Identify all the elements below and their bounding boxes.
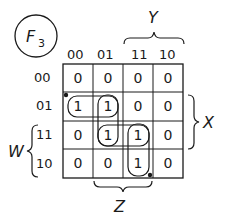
function-label: F 3 [15,15,57,57]
column-header: 10 [159,47,176,62]
variable-x-brace: X [188,95,215,149]
cell-value: 1 [74,98,83,114]
variable-y-label: Y [148,8,159,27]
column-header: 01 [97,47,114,62]
variable-z-brace: Z [94,181,152,216]
cell-value: 0 [134,70,143,86]
variable-w-brace: W [8,125,38,177]
cell-value: 1 [104,127,113,143]
karnaugh-map-diagram: F 3 Y 00 01 11 10 00 01 11 10 0 0 0 0 1 … [0,0,232,220]
row-header: 11 [36,127,53,142]
cell-value: 0 [74,155,83,171]
cell-value: 0 [74,70,83,86]
variable-x-label: X [202,113,215,132]
column-headers: 00 01 11 10 [67,47,176,62]
variable-z-label: Z [113,197,126,216]
column-header: 11 [131,47,148,62]
column-header: 00 [67,47,84,62]
cell-value: 0 [134,98,143,114]
brace-bottom-icon [94,181,152,192]
cell-value: 0 [74,127,83,143]
variable-y-brace: Y [124,8,184,44]
cell-value: 0 [164,127,173,143]
brace-top-icon [124,32,184,44]
row-headers: 00 01 11 10 [34,70,53,171]
row-header: 10 [36,156,53,171]
function-label-circle [15,15,57,57]
cell-value: 1 [134,127,143,143]
cell-value: 0 [164,98,173,114]
cell-value: 0 [164,155,173,171]
brace-right-icon [188,95,199,149]
variable-w-label: W [8,142,25,161]
function-letter: F [26,27,36,46]
function-subscript: 3 [38,37,45,50]
marker-dot [64,93,68,97]
row-header: 00 [34,70,51,85]
marker-dot [148,173,152,177]
cell-value: 0 [164,70,173,86]
row-header: 01 [36,98,53,113]
cell-value: 1 [104,98,113,114]
cell-value: 1 [134,155,143,171]
cell-value: 0 [104,70,113,86]
cell-value: 0 [104,155,113,171]
